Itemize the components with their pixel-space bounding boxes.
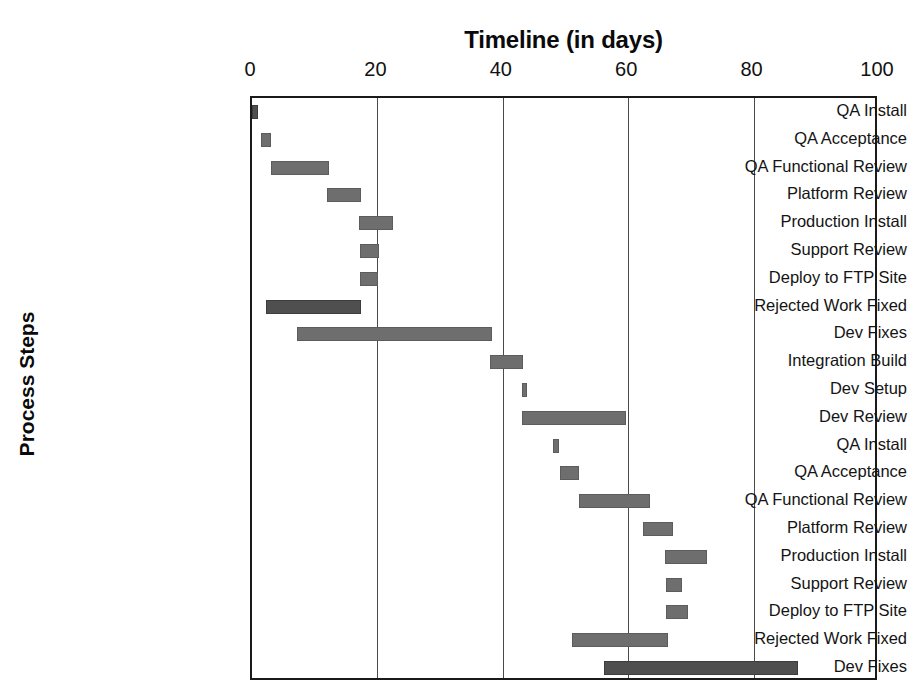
- row-label: Integration Build: [670, 352, 914, 369]
- gantt-bar: [252, 105, 258, 119]
- row-label: QA Install: [670, 436, 914, 453]
- gridline-40: [503, 98, 504, 678]
- row-label: Support Review: [670, 575, 914, 592]
- gantt-bar: [490, 355, 523, 369]
- x-tick-label-80: 80: [722, 58, 782, 81]
- gantt-bar: [360, 272, 378, 286]
- gantt-bar: [266, 300, 361, 314]
- row-label: QA Acceptance: [670, 463, 914, 480]
- gantt-bar: [261, 133, 270, 147]
- row-label: Deploy to FTP Site: [670, 602, 914, 619]
- gantt-bar: [579, 494, 649, 508]
- gantt-bar: [360, 244, 379, 258]
- row-label: Production Install: [670, 213, 914, 230]
- row-label: Deploy to FTP Site: [670, 269, 914, 286]
- row-label: Production Install: [670, 547, 914, 564]
- row-label: QA Install: [670, 102, 914, 119]
- row-label: Support Review: [670, 241, 914, 258]
- gantt-bar: [271, 161, 329, 175]
- row-label: QA Acceptance: [670, 130, 914, 147]
- row-label: Dev Review: [670, 408, 914, 425]
- row-label: Rejected Work Fixed: [670, 297, 914, 314]
- gantt-bar: [297, 327, 492, 341]
- gantt-bar: [643, 522, 673, 536]
- row-label: Platform Review: [670, 185, 914, 202]
- row-label: QA Functional Review: [670, 158, 914, 175]
- gantt-bar: [522, 383, 528, 397]
- y-axis-title: Process Steps: [15, 294, 39, 474]
- row-label: Dev Fixes: [670, 324, 914, 341]
- row-label: Rejected Work Fixed: [670, 630, 914, 647]
- x-tick-label-20: 20: [345, 58, 405, 81]
- x-tick-label-60: 60: [596, 58, 656, 81]
- x-tick-label-0: 0: [220, 58, 280, 81]
- gantt-bar: [327, 188, 361, 202]
- x-tick-label-40: 40: [471, 58, 531, 81]
- row-label: QA Functional Review: [670, 491, 914, 508]
- gridline-20: [377, 98, 378, 678]
- row-label: Platform Review: [670, 519, 914, 536]
- gantt-bar: [359, 216, 393, 230]
- gantt-bar: [560, 466, 579, 480]
- gantt-bar: [522, 411, 626, 425]
- chart-title: Timeline (in days): [250, 26, 877, 54]
- gantt-bar: [572, 633, 668, 647]
- gantt-chart: Timeline (in days) Process Steps 0204060…: [0, 0, 914, 694]
- row-label: Dev Setup: [670, 380, 914, 397]
- gantt-bar: [553, 439, 559, 453]
- x-tick-label-100: 100: [847, 58, 907, 81]
- row-label: Dev Fixes: [670, 658, 914, 675]
- gridline-60: [628, 98, 629, 678]
